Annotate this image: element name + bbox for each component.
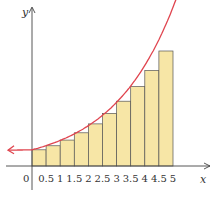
x-tick-label: 5 bbox=[170, 173, 176, 184]
x-tick-label: 1.5 bbox=[66, 173, 82, 184]
riemann-chart: 00.511.522.533.544.55 y x bbox=[0, 0, 214, 197]
x-axis-label: x bbox=[200, 173, 207, 186]
rectangle bbox=[88, 124, 102, 166]
rectangle bbox=[159, 51, 173, 166]
x-tick-label: 1 bbox=[57, 173, 63, 184]
rectangle bbox=[32, 150, 46, 166]
x-tick-label: 3 bbox=[113, 173, 119, 184]
rectangle bbox=[74, 133, 88, 166]
x-tick-label: 2.5 bbox=[95, 173, 111, 184]
rectangle bbox=[131, 87, 145, 166]
rectangle bbox=[103, 113, 117, 166]
rectangle bbox=[46, 146, 60, 166]
x-tick-label: 4.5 bbox=[151, 173, 167, 184]
x-tick-label: 3.5 bbox=[123, 173, 139, 184]
y-axis-label: y bbox=[21, 6, 29, 19]
rectangle bbox=[60, 140, 74, 166]
x-tick-label: 0.5 bbox=[38, 173, 54, 184]
x-tick-label: 4 bbox=[142, 173, 148, 184]
x-tick-label: 0 bbox=[23, 173, 29, 184]
rectangle bbox=[117, 101, 131, 166]
rectangles bbox=[32, 51, 173, 166]
x-tick-labels: 00.511.522.533.544.55 bbox=[23, 173, 176, 184]
rectangle bbox=[145, 70, 159, 166]
x-tick-label: 2 bbox=[85, 173, 91, 184]
